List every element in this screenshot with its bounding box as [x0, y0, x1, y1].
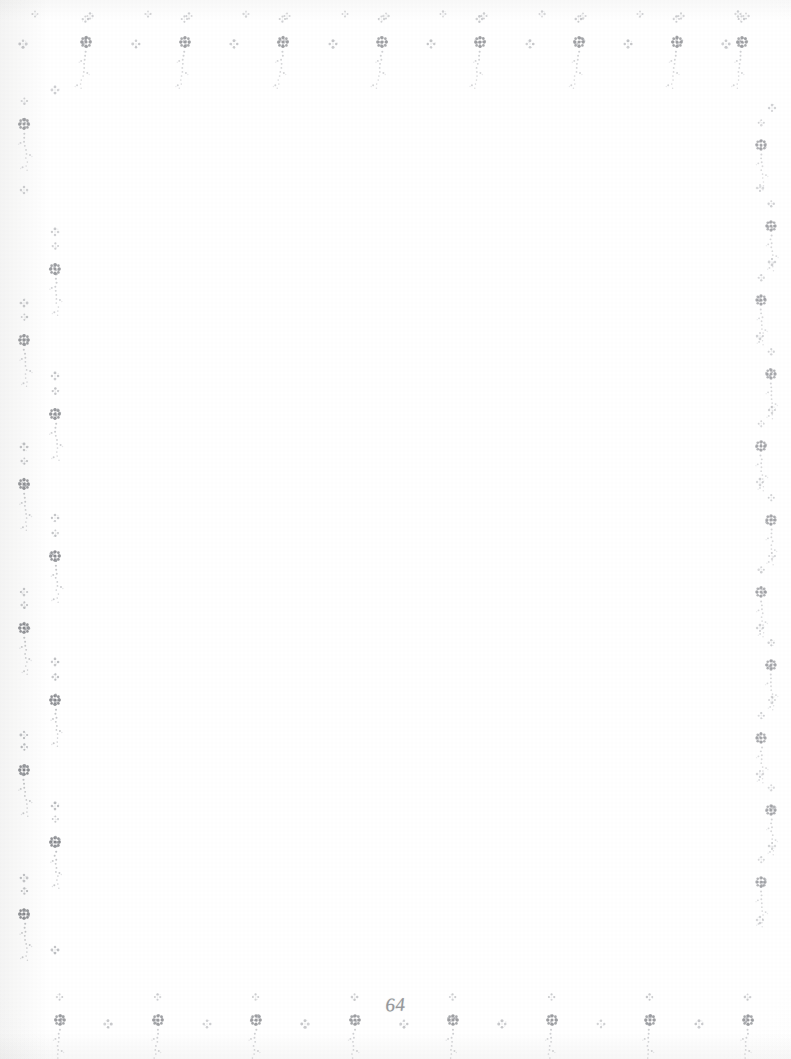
- bottom-edge-shadow: [0, 1033, 791, 1059]
- page-content-area: [86, 74, 738, 974]
- top-edge-shadow: [0, 0, 791, 20]
- book-page: 64: [0, 0, 791, 1059]
- left-gutter-shadow: [0, 0, 48, 1059]
- page-number: 64: [0, 973, 791, 1036]
